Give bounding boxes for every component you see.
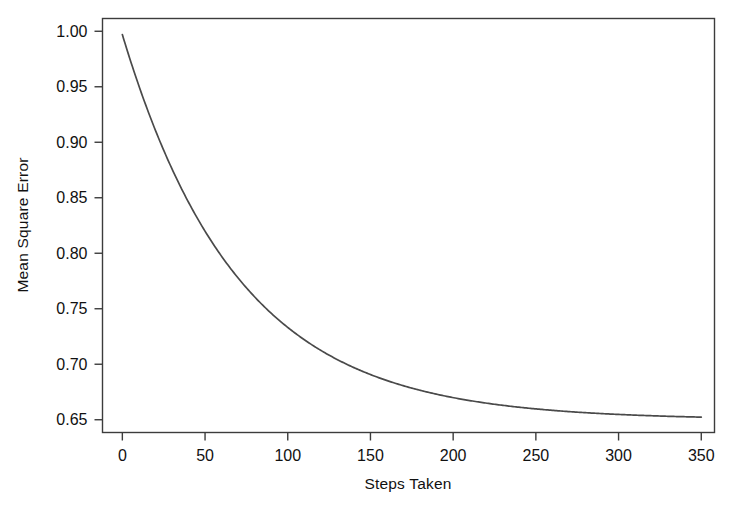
y-tick-label: 0.85 [56, 189, 87, 206]
figure-background [0, 0, 731, 511]
y-tick-label: 1.00 [56, 23, 87, 40]
y-tick-label: 0.75 [56, 300, 87, 317]
x-tick-label: 200 [440, 447, 467, 464]
x-tick-label: 300 [605, 447, 632, 464]
y-tick-label: 0.65 [56, 411, 87, 428]
x-tick-label: 50 [196, 447, 214, 464]
y-tick-label: 0.80 [56, 245, 87, 262]
x-tick-label: 100 [274, 447, 301, 464]
y-axis-title: Mean Square Error [14, 157, 31, 292]
x-tick-label: 150 [357, 447, 384, 464]
y-tick-label: 0.70 [56, 356, 87, 373]
x-axis-title: Steps Taken [364, 475, 451, 492]
x-tick-label: 250 [523, 447, 550, 464]
y-tick-label: 0.90 [56, 134, 87, 151]
x-tick-label: 350 [688, 447, 715, 464]
x-tick-label: 0 [118, 447, 127, 464]
chart-figure: 0.650.700.750.800.850.900.951.00 0501001… [0, 0, 731, 511]
mean-square-error-line-chart: 0.650.700.750.800.850.900.951.00 0501001… [0, 0, 731, 511]
y-tick-label: 0.95 [56, 78, 87, 95]
